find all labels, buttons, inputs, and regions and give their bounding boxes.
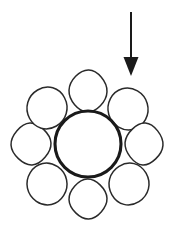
diagram-canvas [0, 0, 174, 233]
central-core-circle [55, 111, 121, 177]
figure-root: Fiber bundle cross-section with applied … [0, 0, 174, 233]
core-circle-group [55, 111, 121, 177]
